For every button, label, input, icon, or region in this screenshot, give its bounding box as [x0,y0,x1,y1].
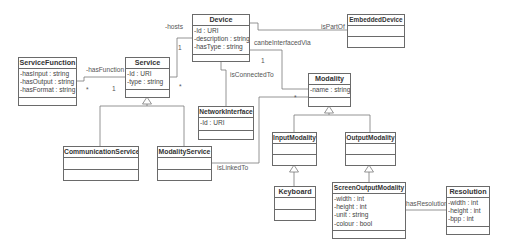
class-name: OutputModality [346,133,395,144]
class-name: ServiceFunction [19,58,76,69]
attribute: -Id : URI [200,119,253,127]
has-function-label: -hasFunction [86,66,124,73]
can-be-interfaced-via-association-line [249,50,308,89]
attribute-list: -hasInput : string -hasOutput : string -… [19,69,76,98]
hosts-multiplicity-service: * [179,83,182,90]
modality-inheritance-triangle-icon [325,106,334,113]
class-modality[interactable]: Modality -name : string [308,73,351,107]
attribute-list [275,198,315,210]
has-resolution-label: hasResolution [406,200,448,207]
has-function-multiplicity-service: 1 [112,85,116,92]
modality-generalization-line [294,113,329,132]
input-modality-inheritance-triangle-icon [290,165,299,172]
attribute: -hasFormat : string [20,86,76,94]
class-output-modality[interactable]: OutputModality [345,132,396,166]
class-name: NetworkInterface [199,107,253,118]
hosts-label: -hosts [165,23,183,30]
class-screen-output-modality[interactable]: ScreenOutputModality -width : int -heigh… [332,182,406,239]
output-modality-inheritance-triangle-icon [365,165,374,172]
class-service[interactable]: Service -Id : URI -type : string [125,57,170,98]
attribute-list [346,144,395,155]
attribute: -Id : URI [127,70,169,78]
attribute: -hasOutput : string [20,78,76,86]
attribute: -height : int [334,203,405,211]
attribute-list [64,158,138,170]
can-be-interfaced-via-multiplicity: 1 [261,57,265,64]
class-name: ModalityService [158,147,211,158]
attribute: -width : int [448,199,489,207]
attribute-list: -Id : URI -type : string [126,69,169,90]
attribute: -unit : string [334,211,405,219]
attribute: -description : string [194,35,249,43]
class-name: Service [126,58,169,69]
attribute-list: -width : int -height : int -bpp : int [447,198,489,227]
class-input-modality[interactable]: InputModality [272,132,317,166]
class-communication-service[interactable]: CommunicationService [63,146,139,181]
attribute-list: -name : string [309,85,350,98]
is-connected-to-label: isConnectedTo [230,71,274,78]
attribute-list [158,158,211,170]
class-network-interface[interactable]: NetworkInterface -Id : URI [198,106,254,140]
class-name: Keyboard [275,187,315,198]
is-linked-to-label: isLinkedTo [217,164,248,171]
class-name: Modality [309,74,350,85]
has-function-association-line [76,77,125,81]
attribute: -hasType : string [194,43,249,51]
class-embedded-device[interactable]: EmbeddedDevice [347,14,405,48]
class-service-function[interactable]: ServiceFunction -hasInput : string -hasO… [18,57,77,106]
attribute: -colour : bool [334,220,405,228]
class-name: ScreenOutputModality [333,183,405,194]
attribute: -type : string [127,78,169,86]
can-be-interfaced-via-label: canbeInterfacedVia [254,39,311,46]
class-name: Resolution [447,187,489,198]
service-inheritance-triangle-icon [143,97,152,104]
class-name: Device [193,15,249,26]
class-modality-service[interactable]: ModalityService [157,146,212,181]
service-generalization-line [100,104,147,146]
attribute: -Id : URI [194,27,249,35]
attribute: -height : int [448,207,489,215]
class-name: InputModality [273,133,316,144]
is-linked-to-multiplicity: * [294,94,297,101]
attribute-list [348,26,404,37]
class-keyboard[interactable]: Keyboard [274,186,316,221]
attribute-list: -Id : URI [199,118,253,131]
class-name: EmbeddedDevice [348,15,404,26]
attribute: -hasInput : string [20,70,76,78]
attribute: -width : int [334,195,405,203]
is-connected-to-association-line [221,61,226,106]
attribute-list: -Id : URI -description : string -hasType… [193,26,249,55]
hosts-multiplicity-device: 1 [178,44,182,51]
attribute-list: -width : int -height : int -unit : strin… [333,194,405,231]
class-resolution[interactable]: Resolution -width : int -height : int -b… [446,186,490,235]
attribute-list [273,144,316,155]
has-function-multiplicity-function: * [86,86,89,93]
attribute: -bpp : int [448,215,489,223]
class-device[interactable]: Device -Id : URI -description : string -… [192,14,250,62]
class-name: CommunicationService [64,147,138,158]
attribute: -name : string [310,86,350,94]
is-part-of-label: isPartOf [321,23,345,30]
